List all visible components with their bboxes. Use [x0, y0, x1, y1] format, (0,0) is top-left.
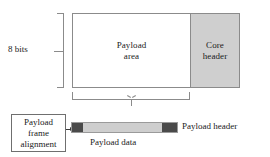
payload-area-label-line2: area — [117, 51, 147, 62]
payload-area-label: Payload area — [117, 40, 147, 62]
payload-header-label: Payload header — [182, 121, 237, 131]
payload-area-cell: Payload area — [73, 14, 190, 87]
bracket-top-tick — [57, 13, 64, 14]
diagram-canvas: 8 bits Payload area Core header Payload … — [0, 0, 270, 157]
payload-frame-alignment-box: Payload frame alignment — [11, 114, 66, 152]
bracket-bottom-tick — [57, 87, 64, 88]
eight-bits-label: 8 bits — [8, 44, 28, 54]
frame-bar-right-header-segment — [162, 123, 177, 132]
brace-left-nib — [127, 95, 131, 98]
brace-right-nib — [132, 95, 136, 98]
core-header-label-line2: header — [203, 51, 228, 62]
payload-data-label: Payload data — [90, 137, 136, 147]
pfa-label-line3: alignment — [21, 139, 57, 150]
core-header-label-line1: Core — [203, 40, 228, 51]
payload-area-label-line1: Payload — [117, 40, 147, 51]
brace-left-arm — [72, 92, 73, 100]
bracket-mid-stub — [54, 51, 63, 52]
pfa-label-line1: Payload — [24, 117, 53, 128]
bracket-vertical-line — [63, 13, 64, 88]
core-header-label: Core header — [203, 40, 228, 62]
payload-frame-box: Payload area Core header — [72, 13, 240, 88]
frame-bar-left-header-segment — [72, 123, 83, 132]
brace-center-stem — [131, 99, 132, 106]
payload-frame-bar — [71, 122, 178, 133]
brace-right-arm — [189, 92, 190, 100]
pfa-label-line2: frame — [28, 128, 49, 139]
core-header-cell: Core header — [190, 14, 239, 87]
payload-area-brace — [72, 92, 190, 106]
eight-bits-bracket — [50, 13, 64, 88]
frame-bar-payload-data-segment — [83, 123, 162, 132]
